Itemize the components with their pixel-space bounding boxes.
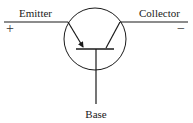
collector-diagonal [106,22,120,48]
collector-label: Collector [139,7,180,19]
minus-sign-icon: − [177,21,185,36]
plus-sign-icon: + [6,21,14,36]
transistor-diagram: Emitter Collector Base + − [0,0,193,123]
emitter-arrow-icon [68,22,83,47]
transistor-envelope [64,8,126,70]
emitter-label: Emitter [19,7,52,19]
base-label: Base [85,108,107,120]
